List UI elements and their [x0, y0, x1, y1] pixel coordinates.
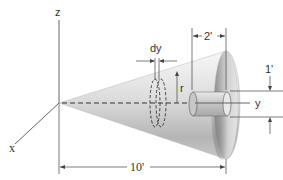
hole-depth-arrowhead-right	[220, 34, 225, 38]
dy-arrowhead-right	[159, 59, 164, 63]
hole-inner-end	[189, 92, 197, 116]
x-axis	[15, 103, 59, 144]
hole-radius-label: 1'	[265, 63, 273, 75]
hole-depth-arrowhead-left	[193, 34, 198, 38]
z-axis-label: z	[55, 6, 61, 18]
dy-label: dy	[150, 42, 162, 54]
length-label: 10'	[130, 160, 144, 174]
length-arrowhead-left	[60, 165, 65, 169]
hole-opening	[223, 92, 231, 116]
length-arrowhead-right	[220, 165, 225, 169]
dy-arrowhead-left	[150, 59, 155, 63]
x-axis-label: x	[9, 141, 15, 155]
cone-diagram: z x dy r y 2' 1' 10'	[0, 0, 283, 180]
hole-body	[193, 92, 227, 116]
hole-radius-arrowhead-top	[268, 86, 272, 91]
r-label: r	[180, 82, 184, 94]
y-axis-label: y	[255, 97, 261, 109]
hole-depth-label: 2'	[204, 30, 212, 42]
hole-radius-arrowhead-bottom	[268, 117, 272, 122]
